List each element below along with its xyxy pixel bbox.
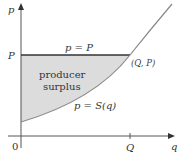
y-axis-arrow-icon	[18, 3, 24, 10]
y-axis-label: p	[8, 4, 15, 15]
origin-label: 0	[12, 141, 18, 152]
x-axis-label: q	[171, 141, 177, 152]
region-label-line2: surplus	[43, 81, 81, 92]
producer-surplus-diagram: p q 0 P Q p = P (Q, P) p = S(q) producer…	[0, 0, 183, 158]
curve-label: p = S(q)	[74, 100, 116, 111]
p-tick-label: P	[7, 50, 15, 61]
point-label: (Q, P)	[131, 58, 155, 68]
x-axis-arrow-icon	[168, 133, 175, 139]
q-tick-label: Q	[126, 142, 134, 153]
region-label-line1: producer	[39, 69, 86, 80]
price-line-label: p = P	[65, 42, 93, 53]
